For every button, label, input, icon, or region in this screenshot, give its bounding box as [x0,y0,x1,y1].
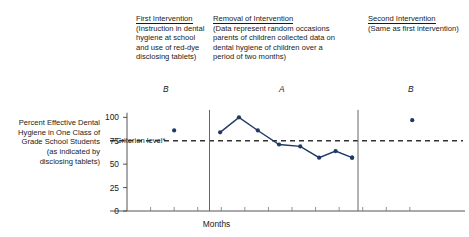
annotation-second-body: (Same as first intervention) [368,24,464,34]
annotation-removal-body: (Data represent random occasions parents… [213,24,343,62]
annotation-first-body: (Instruction in dental hygiene at school… [136,24,208,62]
annotation-removal-of-intervention: Removal of Intervention (Data represent … [213,4,343,72]
phase-label-b-second: B [408,84,414,94]
annotation-removal-heading: Removal of Intervention [213,14,293,24]
phase-label-b-first: B [163,84,169,94]
y-tick-label: 75 [97,136,119,146]
annotation-second-intervention: Second Intervention (Same as first inter… [368,4,464,43]
chart-svg [110,104,465,212]
x-axis-title: Months [0,219,469,229]
y-tick-label: 50 [97,159,119,169]
annotation-first-intervention: First Intervention (Instruction in denta… [136,4,208,72]
x-axis-title-text: Months [203,219,230,229]
phase-label-a: A [279,84,285,94]
y-tick-label: 0 [97,206,119,216]
figure: First Intervention (Instruction in denta… [0,0,469,237]
y-axis-title: Percent Effective Dental Hygiene in One … [12,118,100,167]
y-tick-label: 100 [97,112,119,122]
annotation-second-heading: Second Intervention [368,14,436,24]
annotation-first-heading: First Intervention [136,14,193,24]
plot-area: 0255075100 [110,104,465,212]
y-tick-label: 25 [97,183,119,193]
